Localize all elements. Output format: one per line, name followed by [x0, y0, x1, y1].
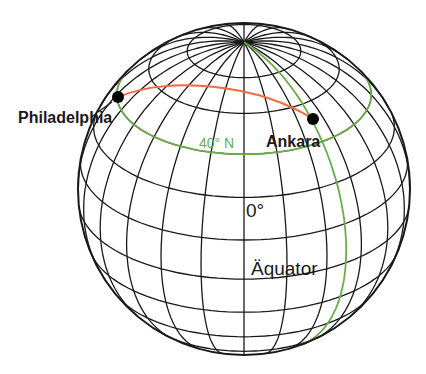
graticule: [78, 23, 410, 355]
philadelphia-dot: [112, 91, 124, 103]
great-circle-route: [118, 85, 313, 119]
graticule-line: [244, 42, 410, 189]
label-equator: Äquator: [251, 258, 318, 280]
ankara-dot: [307, 113, 319, 125]
label-0-degree: 0°: [246, 200, 264, 222]
graticule-line: [100, 42, 244, 316]
label-philadelphia: Philadelphia: [18, 109, 112, 127]
label-ankara: Ankara: [266, 133, 320, 151]
globe-diagram: [0, 0, 426, 374]
label-40n: 40° N: [199, 135, 234, 151]
